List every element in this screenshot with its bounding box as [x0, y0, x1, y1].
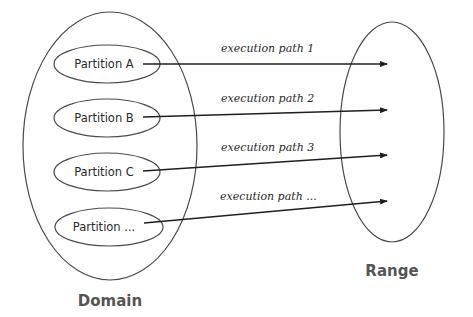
- partition-a-label: Partition A: [74, 57, 134, 71]
- execution-path-more-arrow: [144, 201, 387, 223]
- execution-path-3-label: execution path 3: [221, 141, 314, 154]
- domain-label: Domain: [78, 292, 142, 310]
- partition-b: Partition B: [54, 99, 160, 137]
- partition-c-label: Partition C: [74, 165, 134, 179]
- partition-b-label: Partition B: [74, 111, 134, 125]
- execution-path-2-label: execution path 2: [221, 92, 314, 105]
- execution-path-2-arrow: [143, 110, 387, 117]
- execution-path-more-label: execution path ...: [220, 190, 317, 203]
- domain-range-diagram: Domain Range Partition A Partition B Par…: [0, 0, 473, 317]
- range-label: Range: [365, 262, 418, 280]
- partition-more-label: Partition ...: [73, 220, 136, 234]
- partition-c: Partition C: [54, 153, 160, 191]
- execution-path-1-label: execution path 1: [221, 42, 314, 55]
- range-ellipse: [340, 22, 444, 242]
- partition-more: Partition ...: [55, 208, 163, 246]
- execution-path-3-arrow: [143, 155, 387, 171]
- domain-ellipse: [23, 12, 197, 280]
